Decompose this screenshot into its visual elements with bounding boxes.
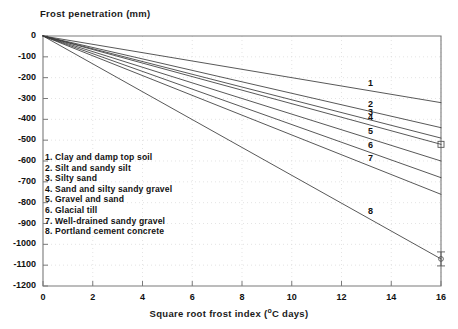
legend-item: 1. Clay and damp top soil	[45, 152, 172, 163]
y-tick-label: -1200	[0, 280, 36, 290]
x-tick-label: 4	[128, 292, 158, 302]
y-tick-label: -800	[0, 197, 36, 207]
series-label-7: 7	[368, 153, 373, 163]
y-tick-label: -500	[0, 134, 36, 144]
legend: 1. Clay and damp top soil2. Silt and san…	[45, 152, 172, 237]
x-tick-label: 2	[78, 292, 108, 302]
x-tick-label: 10	[277, 292, 307, 302]
y-axis-title: Frost penetration (mm)	[40, 8, 151, 19]
legend-item: 5. Gravel and sand	[45, 194, 172, 205]
x-axis-title: Square root frost index (oC days)	[0, 307, 458, 319]
series-label-8: 8	[368, 206, 373, 216]
legend-item: 6. Glacial till	[45, 205, 172, 216]
legend-item: 4. Sand and silty sandy gravel	[45, 184, 172, 195]
y-tick-label: -600	[0, 155, 36, 165]
series-label-4: 4	[368, 112, 373, 122]
legend-item: 8. Portland cement concrete	[45, 226, 172, 237]
y-tick-label: -900	[0, 218, 36, 228]
y-tick-label: -700	[0, 176, 36, 186]
y-tick-label: -400	[0, 113, 36, 123]
x-tick-label: 12	[327, 292, 357, 302]
series-label-5: 5	[368, 126, 373, 136]
x-axis-title-text: Square root frost index (	[150, 308, 268, 319]
legend-item: 3. Silty sand	[45, 173, 172, 184]
y-tick-label: 0	[0, 30, 36, 40]
x-tick-label: 8	[227, 292, 257, 302]
y-tick-label: -100	[0, 51, 36, 61]
x-tick-label: 6	[177, 292, 207, 302]
y-tick-label: -1100	[0, 259, 36, 269]
x-tick-label: 14	[376, 292, 406, 302]
y-tick-label: -300	[0, 93, 36, 103]
y-tick-label: -200	[0, 72, 36, 82]
legend-item: 7. Well-drained sandy gravel	[45, 216, 172, 227]
series-label-1: 1	[368, 78, 373, 88]
legend-item: 2. Silt and sandy silt	[45, 163, 172, 174]
series-label-6: 6	[368, 140, 373, 150]
x-axis-title-unit: C days)	[272, 308, 308, 319]
frost-penetration-chart: Frost penetration (mm) Square root frost…	[0, 0, 458, 329]
x-tick-label: 16	[426, 292, 456, 302]
y-tick-label: -1000	[0, 238, 36, 248]
x-tick-label: 0	[28, 292, 58, 302]
